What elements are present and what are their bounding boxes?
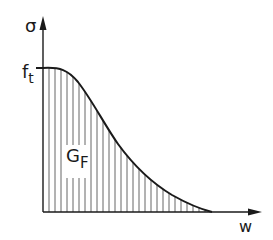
softening-curve <box>36 68 212 212</box>
y-axis-label: σ <box>25 15 36 36</box>
fracture-energy-label: GF <box>66 145 89 172</box>
y-axis-arrowhead-icon <box>40 16 47 30</box>
x-axis-arrowhead-icon <box>248 209 262 216</box>
peak-stress-label: ft <box>22 61 34 86</box>
hatch-fill <box>49 60 205 212</box>
x-axis-label: w <box>239 217 252 236</box>
softening-curve-diagram: σ ft GF w <box>0 0 273 240</box>
